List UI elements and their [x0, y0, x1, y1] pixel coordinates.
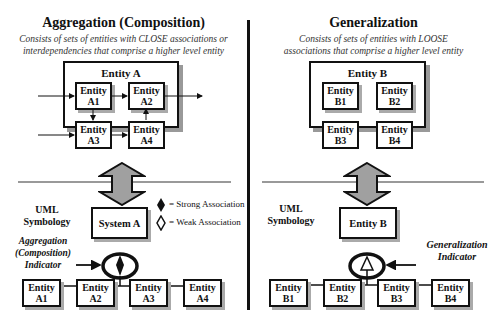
strong-association-label: = Strong Association [169, 199, 245, 209]
entity-b3-inner: EntityB3 [322, 121, 359, 149]
left-double-arrow-icon [98, 162, 146, 206]
entity-a4-child: EntityA4 [183, 279, 222, 307]
generalization-title: Generalization [250, 15, 497, 31]
weak-association-label: = Weak Association [169, 217, 241, 227]
entity-b3-child: EntityB3 [377, 279, 416, 307]
entity-b-title: Entity B [311, 67, 424, 79]
weak-association-diamond-icon [156, 215, 166, 231]
entity-b2-child: EntityB2 [323, 279, 362, 307]
entity-b1-inner: EntityB1 [322, 82, 359, 110]
strong-association-diamond-icon [156, 197, 166, 213]
entity-b4-inner: EntityB4 [376, 121, 413, 149]
entity-a2-child: EntityA2 [76, 279, 115, 307]
entity-b4-child: EntityB4 [431, 279, 470, 307]
generalization-subtitle-1: Consists of sets of entities with LOOSE [250, 33, 497, 45]
generalization-subtitle-2: associations that comprise a higher leve… [250, 45, 497, 57]
entity-a1-child: EntityA1 [22, 279, 61, 307]
entity-a3-child: EntityA3 [129, 279, 168, 307]
left-uml-label: UMLSymbology [22, 204, 72, 228]
right-uml-label: UMLSymbology [266, 203, 316, 227]
right-double-arrow-icon [343, 162, 391, 206]
entity-b2-inner: EntityB2 [376, 82, 413, 110]
entity-b1-child: EntityB1 [269, 279, 308, 307]
generalization-indicator-label: GeneralizationIndicator [417, 239, 497, 263]
entity-a-flow-arrows [0, 0, 247, 180]
